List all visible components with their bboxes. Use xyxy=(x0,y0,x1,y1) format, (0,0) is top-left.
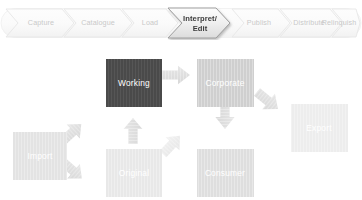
node-original-label: Original xyxy=(119,168,149,178)
node-import[interactable]: Import xyxy=(13,132,67,180)
node-working-label: Working xyxy=(118,78,150,88)
chevron-label-publish: Publish xyxy=(247,18,271,27)
chevron-label-relinquish: Relinquish xyxy=(322,18,357,27)
node-consumer[interactable]: Consumer xyxy=(197,149,254,197)
data-flow-diagram: Import Working Corporate Original xyxy=(0,44,362,200)
arrow-working-to-corporate xyxy=(162,66,190,84)
node-original[interactable]: Original xyxy=(106,149,162,197)
node-import-label: Import xyxy=(28,151,53,161)
node-corporate[interactable]: Corporate xyxy=(197,59,254,107)
diagram-page: Capture Catalogue Load Interpret/ Edit P… xyxy=(0,0,362,200)
node-export[interactable]: Export xyxy=(291,104,348,152)
arrow-corporate-to-export xyxy=(251,84,285,117)
lifecycle-process-bar: Capture Catalogue Load Interpret/ Edit P… xyxy=(0,6,362,40)
chevron-label-capture: Capture xyxy=(28,18,54,27)
chevron-label-distribute: Distribute xyxy=(293,18,324,27)
node-working[interactable]: Working xyxy=(106,59,162,107)
chevron-label-interpret: Interpret/ xyxy=(183,14,218,23)
node-export-label: Export xyxy=(306,123,332,133)
chevron-label-load: Load xyxy=(142,18,158,27)
chevron-label-catalogue: Catalogue xyxy=(81,18,115,27)
arrow-original-to-working xyxy=(124,118,143,144)
node-corporate-label: Corporate xyxy=(205,78,244,88)
node-consumer-label: Consumer xyxy=(205,168,245,178)
chevron-label-edit: Edit xyxy=(193,24,208,33)
